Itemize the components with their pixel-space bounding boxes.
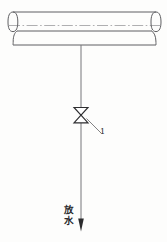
diagram-canvas <box>0 0 167 242</box>
gate-valve-symbol <box>74 108 88 123</box>
valve-callout-number: 1 <box>100 128 105 136</box>
discharge-label: 放 水 <box>62 204 75 226</box>
discharge-label-char-2: 水 <box>62 215 75 226</box>
header-pipe-group <box>8 12 161 45</box>
header-pipe-right-cap-ellipse <box>151 12 161 32</box>
discharge-label-char-1: 放 <box>62 204 75 215</box>
header-pipe-left-bottom-curve <box>13 31 17 45</box>
discharge-arrowhead-icon <box>78 219 84 232</box>
drain-pipe-diagram: 1 放 水 <box>0 0 167 242</box>
header-pipe-right-bottom-curve <box>152 31 156 45</box>
gate-valve-lower-triangle <box>74 115 88 123</box>
header-pipe-left-cap-ellipse <box>8 12 18 32</box>
gate-valve-upper-triangle <box>74 108 88 116</box>
